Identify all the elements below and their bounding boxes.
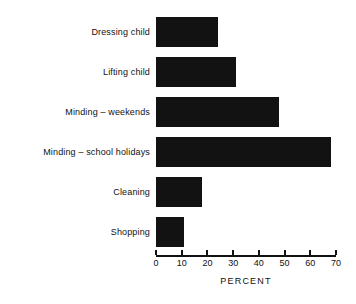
x-axis-tick-label: 20 xyxy=(195,258,219,269)
x-axis-tick xyxy=(232,250,234,255)
bar-chart: Dressing childLifting childMinding – wee… xyxy=(0,0,356,304)
bar-category-label: Dressing child xyxy=(91,17,150,47)
x-axis-line xyxy=(156,255,336,257)
x-axis-tick xyxy=(155,250,157,255)
bar-row: Minding – weekends xyxy=(0,97,356,127)
x-axis-tick xyxy=(258,250,260,255)
bar-row: Dressing child xyxy=(0,17,356,47)
x-axis-tick-label: 60 xyxy=(298,258,322,269)
bar-row: Lifting child xyxy=(0,57,356,87)
bar xyxy=(156,57,236,87)
x-axis-tick-label: 70 xyxy=(324,258,348,269)
x-axis-tick xyxy=(284,250,286,255)
x-axis-tick xyxy=(181,250,183,255)
bar xyxy=(156,97,279,127)
bar xyxy=(156,177,202,207)
x-axis-tick-label: 10 xyxy=(170,258,194,269)
x-axis-tick xyxy=(335,250,337,255)
bar-category-label: Minding – weekends xyxy=(65,97,150,127)
bar-category-label: Shopping xyxy=(111,217,150,247)
x-axis-title: PERCENT xyxy=(156,276,336,286)
x-axis-tick-label: 30 xyxy=(221,258,245,269)
bar-row: Minding – school holidays xyxy=(0,137,356,167)
bar-category-label: Cleaning xyxy=(113,177,150,207)
bar-category-label: Minding – school holidays xyxy=(43,137,150,167)
bar-row: Shopping xyxy=(0,217,356,247)
x-axis-tick xyxy=(206,250,208,255)
x-axis-tick xyxy=(309,250,311,255)
bar xyxy=(156,137,331,167)
bar xyxy=(156,217,184,247)
x-axis-tick-label: 50 xyxy=(273,258,297,269)
bar-category-label: Lifting child xyxy=(103,57,150,87)
bar-row: Cleaning xyxy=(0,177,356,207)
bar xyxy=(156,17,218,47)
x-axis-tick-label: 0 xyxy=(144,258,168,269)
x-axis-tick-label: 40 xyxy=(247,258,271,269)
